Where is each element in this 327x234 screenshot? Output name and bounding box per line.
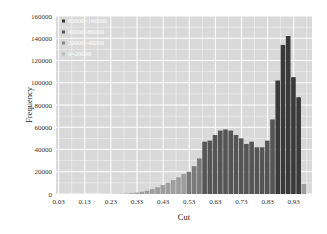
legend-swatch <box>62 42 65 45</box>
histogram-bar <box>202 142 207 194</box>
y-tick-label: 100000 <box>31 79 53 87</box>
y-tick-label: 20000 <box>35 168 53 176</box>
histogram-bar <box>124 193 129 194</box>
histogram-bar <box>208 141 213 194</box>
legend-label: 80000~160000 <box>68 17 107 24</box>
histogram-bar <box>129 193 134 194</box>
x-tick-label: 0.93 <box>288 198 301 206</box>
legend-label: 40000~80000 <box>68 28 104 35</box>
histogram-chart: 0200004000060000800001000001200001400001… <box>0 0 327 234</box>
legend-swatch <box>62 53 65 56</box>
x-tick-label: 0.23 <box>105 198 118 206</box>
histogram-bar <box>213 135 218 194</box>
x-tick-label: 0.33 <box>131 198 144 206</box>
histogram-bar <box>296 97 301 194</box>
histogram-bar <box>197 158 202 194</box>
histogram-bar <box>150 189 155 194</box>
histogram-bar <box>155 187 160 194</box>
histogram-bar <box>260 147 265 194</box>
x-axis-ticks: 0.030.130.230.330.430.530.630.730.830.93 <box>52 198 300 206</box>
legend-swatch <box>62 31 65 34</box>
histogram-bar <box>160 185 165 194</box>
x-tick-label: 0.03 <box>52 198 65 206</box>
x-tick-label: 0.83 <box>261 198 274 206</box>
histogram-bar <box>302 184 307 194</box>
histogram-bar <box>187 172 192 194</box>
histogram-bar <box>228 131 233 194</box>
y-tick-label: 40000 <box>35 146 53 154</box>
histogram-bar <box>281 45 286 194</box>
y-tick-label: 120000 <box>31 57 53 65</box>
x-tick-label: 0.43 <box>157 198 170 206</box>
y-tick-label: 140000 <box>31 35 53 43</box>
histogram-bar <box>291 77 296 194</box>
histogram-bar <box>239 138 244 194</box>
histogram-bar <box>275 81 280 194</box>
histogram-bar <box>286 36 291 194</box>
histogram-bar <box>249 142 254 194</box>
histogram-bar <box>223 129 228 194</box>
histogram-bar <box>171 180 176 194</box>
histogram-bar <box>265 141 270 194</box>
legend-swatch <box>62 20 65 23</box>
legend-label: 0~20000 <box>68 50 91 57</box>
x-axis-label: Cut <box>178 212 191 222</box>
histogram-bar <box>192 166 197 194</box>
histogram-bar <box>166 183 171 194</box>
x-tick-label: 0.63 <box>209 198 222 206</box>
x-tick-label: 0.53 <box>183 198 196 206</box>
histogram-bar <box>176 177 181 194</box>
histogram-bar <box>181 174 186 194</box>
x-tick-label: 0.13 <box>79 198 92 206</box>
x-tick-label: 0.73 <box>235 198 248 206</box>
histogram-bar <box>145 191 150 194</box>
y-axis-ticks: 0200004000060000800001000001200001400001… <box>31 13 53 199</box>
legend-label: 20000~40000 <box>68 39 104 46</box>
y-axis-label: Frequency <box>24 86 34 123</box>
histogram-bar <box>244 144 249 194</box>
histogram-bar <box>255 147 260 194</box>
histogram-bar <box>218 131 223 194</box>
y-tick-label: 60000 <box>35 124 53 132</box>
histogram-bar <box>140 192 145 194</box>
histogram-bar <box>234 135 239 194</box>
y-tick-label: 80000 <box>35 102 53 110</box>
histogram-bar <box>134 193 139 194</box>
histogram-bar <box>270 119 275 194</box>
y-tick-label: 160000 <box>31 13 53 21</box>
